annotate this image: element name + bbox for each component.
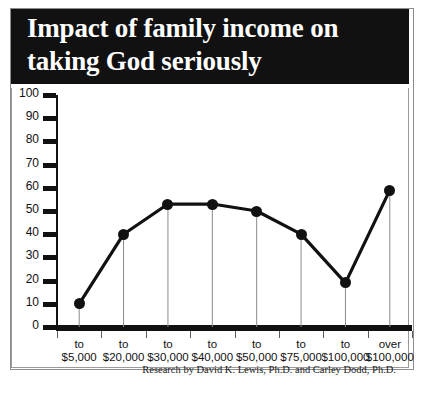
y-axis-tick-mark (43, 139, 56, 144)
x-axis-tick-mark (190, 331, 191, 338)
series-line (57, 95, 412, 327)
x-axis-tick-mark (368, 331, 369, 338)
infographic-chart: Impact of family income on taking God se… (0, 0, 425, 396)
y-axis-tick-mark (43, 93, 56, 98)
y-axis-tick-label: 30 (26, 248, 39, 262)
x-axis-tick-mark (279, 331, 280, 338)
data-point-marker (296, 229, 307, 240)
plot-area (57, 95, 412, 327)
y-axis-tick-label: 60 (26, 179, 39, 193)
y-axis-tick-mark (43, 116, 56, 121)
y-axis-tick-label: 80 (26, 132, 39, 146)
y-axis-tick-label: 10 (26, 295, 39, 309)
y-axis-tick-label: 0 (32, 318, 39, 332)
data-point-marker (251, 206, 262, 217)
y-axis-tick-mark (43, 163, 56, 168)
data-point-marker (162, 199, 173, 210)
y-axis-tick-mark (43, 255, 56, 260)
y-axis-tick-label: 50 (26, 202, 39, 216)
data-point-marker (384, 185, 395, 196)
y-axis-tick-mark (43, 186, 56, 191)
y-axis-tick-mark (43, 232, 56, 237)
attribution-text: Research by David K. Lewis, Ph.D. and Ca… (0, 364, 404, 375)
y-axis-tick-mark (43, 325, 56, 330)
y-axis-tick-label: 90 (26, 109, 39, 123)
x-axis-tick-mark (412, 331, 413, 338)
x-axis-tick-mark (101, 331, 102, 338)
x-axis-tick-mark (323, 331, 324, 338)
page-title: Impact of family income on taking God se… (27, 12, 397, 78)
x-axis-tick-label: over$100,000 (348, 338, 425, 364)
y-axis-tick-mark (43, 302, 56, 307)
y-axis-tick-label: 70 (26, 156, 39, 170)
y-axis-tick-label: 20 (26, 272, 39, 286)
title-banner: Impact of family income on taking God se… (11, 9, 409, 84)
x-axis-tick-mark (57, 331, 58, 338)
data-point-marker (74, 298, 85, 309)
y-axis-tick-mark (43, 209, 56, 214)
x-axis-tick-mark (146, 331, 147, 338)
y-axis-tick-label: 100 (19, 86, 39, 100)
y-axis-tick-label: 40 (26, 225, 39, 239)
x-axis-tick-mark (235, 331, 236, 338)
data-point-marker (207, 199, 218, 210)
y-axis-tick-mark (43, 279, 56, 284)
data-point-marker (118, 229, 129, 240)
